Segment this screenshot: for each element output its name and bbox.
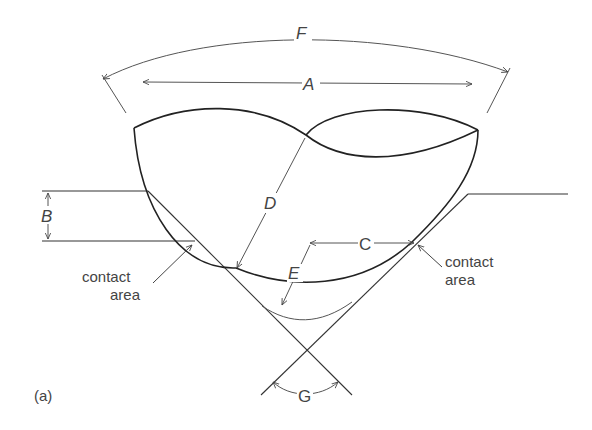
left-contact-text-2: area	[110, 286, 141, 303]
left-contact-text-1: contact	[82, 268, 131, 285]
right-contact-arrow	[418, 245, 442, 267]
panel-label: (a)	[34, 387, 52, 404]
right-contact-text-1: contact	[445, 253, 494, 270]
ball-outline	[134, 109, 478, 283]
dimension-F-arc	[103, 40, 508, 79]
label-C: C	[359, 235, 371, 254]
F-extension-right	[487, 68, 510, 113]
label-D: D	[264, 194, 276, 213]
right-contact-text-2: area	[445, 271, 476, 288]
label-F: F	[296, 24, 308, 43]
inner-arc	[262, 302, 352, 320]
ball-in-groove-diagram: F A B D C E G contact area contact area …	[0, 0, 592, 430]
label-G: G	[298, 387, 311, 406]
label-A: A	[302, 75, 314, 94]
label-B: B	[41, 207, 52, 226]
F-extension-left	[102, 75, 126, 113]
label-E: E	[288, 264, 300, 283]
diagram-canvas: F A B D C E G contact area contact area …	[0, 0, 592, 430]
groove-lines	[148, 191, 468, 395]
left-contact-arrow	[153, 245, 192, 283]
surface-lines	[42, 191, 568, 241]
